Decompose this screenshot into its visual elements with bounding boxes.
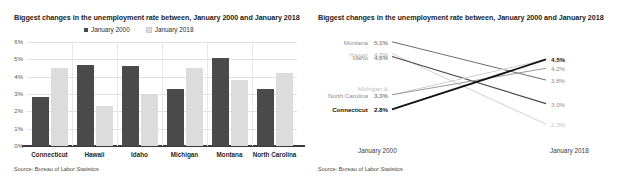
legend-label: January 2018 bbox=[155, 26, 194, 33]
slope-left-label: North Carolina3.3% bbox=[310, 91, 388, 98]
y-axis-tick-label: 6% bbox=[14, 39, 23, 45]
slope-series-name: Montana bbox=[344, 38, 368, 45]
page-title: Biggest changes in the unemployment rate… bbox=[14, 13, 300, 22]
bar[interactable] bbox=[77, 65, 94, 146]
y-axis-tick-label: 0% bbox=[14, 143, 23, 149]
legend-swatch-icon bbox=[84, 28, 88, 32]
axis-label-january-2018: January 2018 bbox=[550, 147, 589, 154]
slope-series-name: Idaho bbox=[352, 53, 367, 60]
y-axis-tick-label: 3% bbox=[14, 91, 23, 97]
slope-right-value-label: 4.2% bbox=[551, 65, 565, 72]
bar[interactable] bbox=[186, 68, 203, 146]
slope-chart-plot-area: Montana5.1%Hawaii4.7%Idaho4.6%Michigan &… bbox=[310, 0, 617, 184]
bar-group[interactable]: Michigan bbox=[162, 42, 207, 146]
x-axis-category-label: North Carolina bbox=[249, 151, 301, 159]
slope-line[interactable] bbox=[392, 68, 546, 94]
dual-chart-figure: Biggest changes in the unemployment rate… bbox=[0, 0, 617, 184]
slope-value-label: 5.1% bbox=[374, 38, 388, 45]
slope-line[interactable] bbox=[392, 42, 546, 80]
bar[interactable] bbox=[32, 97, 49, 146]
slope-line[interactable] bbox=[392, 59, 546, 109]
source-note: Source: Bureau of Labor Statistics bbox=[318, 166, 403, 172]
y-axis-tick-label: 2% bbox=[14, 108, 23, 114]
legend-swatch-icon bbox=[146, 27, 152, 33]
bar[interactable] bbox=[96, 106, 113, 146]
axis-label-january-2000: January 2000 bbox=[358, 147, 397, 154]
slope-value-label: 4.6% bbox=[374, 53, 388, 60]
bar[interactable] bbox=[276, 73, 293, 146]
slope-left-label: Michigan & bbox=[310, 84, 388, 91]
slope-series-name: Michigan & bbox=[357, 84, 388, 91]
slope-value-label: 3.3% bbox=[374, 91, 388, 98]
legend-item-january-2000: January 2000 bbox=[84, 26, 130, 33]
bar[interactable] bbox=[141, 94, 158, 146]
slope-left-label: Connecticut2.8% bbox=[310, 106, 388, 113]
slope-left-label: Montana5.1% bbox=[310, 38, 388, 45]
bar[interactable] bbox=[167, 89, 184, 146]
bar-group[interactable]: Connecticut bbox=[27, 42, 72, 146]
bar[interactable] bbox=[51, 68, 68, 146]
slope-right-value-label: 2.3% bbox=[551, 121, 565, 128]
bar[interactable] bbox=[257, 89, 274, 146]
bar-group[interactable]: Hawaii bbox=[72, 42, 117, 146]
bar-chart-plot-area: 0%1%2%3%4%5%6%ConnecticutHawaiiIdahoMich… bbox=[27, 42, 297, 146]
slope-right-value-label: 4.5% bbox=[551, 56, 565, 63]
bar-chart-panel: Biggest changes in the unemployment rate… bbox=[0, 0, 310, 184]
bar-group[interactable]: Montana bbox=[207, 42, 252, 146]
slope-line[interactable] bbox=[392, 57, 546, 104]
legend-label: January 2000 bbox=[91, 26, 130, 33]
slope-chart-panel: Biggest changes in the unemployment rate… bbox=[310, 0, 617, 184]
slope-series-name: Connecticut bbox=[332, 106, 368, 113]
y-axis-tick-label: 1% bbox=[14, 126, 23, 132]
bar[interactable] bbox=[212, 58, 229, 146]
bar-group[interactable]: Idaho bbox=[117, 42, 162, 146]
y-axis-tick-label: 5% bbox=[14, 56, 23, 62]
source-note: Source: Bureau of Labor Statistics bbox=[14, 166, 99, 172]
y-axis-tick-label: 4% bbox=[14, 74, 23, 80]
slope-right-value-label: 3.8% bbox=[551, 77, 565, 84]
slope-left-label: Idaho4.6% bbox=[310, 53, 388, 60]
slope-value-label: 2.8% bbox=[374, 106, 388, 113]
slope-right-value-label: 3.0% bbox=[551, 100, 565, 107]
bar[interactable] bbox=[122, 66, 139, 146]
bar-group[interactable]: North Carolina bbox=[252, 42, 297, 146]
legend-item-january-2018: January 2018 bbox=[146, 26, 194, 33]
bar-chart-legend: January 2000 January 2018 bbox=[84, 26, 193, 33]
slope-line[interactable] bbox=[392, 59, 546, 94]
bar[interactable] bbox=[231, 80, 248, 146]
slope-series-name: North Carolina bbox=[328, 91, 368, 98]
